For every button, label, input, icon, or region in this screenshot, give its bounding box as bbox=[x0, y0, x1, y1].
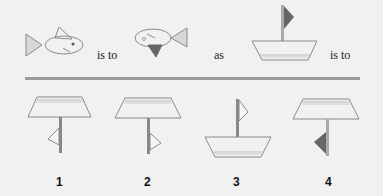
word-is-to-1: is to bbox=[97, 48, 117, 63]
option-1-label: 1 bbox=[56, 175, 63, 189]
boat-dark-flag-figure bbox=[250, 3, 330, 63]
fish-left-figure bbox=[133, 25, 193, 61]
option-3-label: 3 bbox=[233, 175, 240, 189]
word-as: as bbox=[214, 48, 224, 63]
fish-right-figure bbox=[24, 24, 84, 60]
word-is-to-2: is to bbox=[330, 48, 350, 63]
option-2-figure bbox=[114, 98, 182, 158]
option-4-figure bbox=[292, 99, 362, 159]
option-3-figure bbox=[204, 99, 272, 161]
option-1-figure bbox=[27, 97, 93, 157]
divider bbox=[25, 77, 360, 80]
option-4-label: 4 bbox=[325, 175, 332, 189]
option-2-label: 2 bbox=[144, 175, 151, 189]
